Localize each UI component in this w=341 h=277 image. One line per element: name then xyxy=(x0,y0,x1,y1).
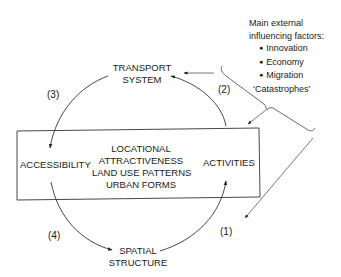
feedback-cycle-diagram: TRANSPORT SYSTEM ACCESSIBILITY LOCATIONA… xyxy=(0,0,341,277)
cycle-label-2: (2) xyxy=(218,84,230,95)
transport-line1: TRANSPORT xyxy=(112,62,172,74)
cycle-label-3: (3) xyxy=(47,89,59,100)
cycle-label-1: (1) xyxy=(220,226,232,237)
factor-catastrophes: ‘Catastrophes’ xyxy=(249,83,324,96)
factors-heading-2: influencing factors: xyxy=(249,30,324,43)
arc-3-arrow xyxy=(50,76,108,148)
node-transport-system: TRANSPORT SYSTEM xyxy=(112,62,172,86)
node-accessibility: ACCESSIBILITY xyxy=(20,159,91,171)
node-center-factors: LOCATIONAL ATTRACTIVENESS LAND USE PATTE… xyxy=(92,143,190,191)
factors-heading-1: Main external xyxy=(249,17,324,30)
external-arrow-spatial xyxy=(245,138,313,218)
factor-migration: Migration xyxy=(249,69,324,83)
spatial-line2: STRUCTURE xyxy=(108,257,168,269)
external-factors: Main external influencing factors: Innov… xyxy=(249,17,324,95)
transport-line2: SYSTEM xyxy=(112,74,172,86)
center-line1: LOCATIONAL xyxy=(92,143,190,155)
cycle-label-4: (4) xyxy=(48,230,60,241)
arc-1-arrow xyxy=(160,181,226,251)
center-line4: URBAN FORMS xyxy=(92,179,190,191)
node-activities: ACTIVITIES xyxy=(203,157,255,169)
external-arrow-box xyxy=(248,110,266,124)
spatial-line1: SPATIAL xyxy=(108,245,168,257)
factor-innovation: Innovation xyxy=(249,42,324,56)
center-line2: ATTRACTIVENESS xyxy=(92,155,190,167)
center-line3: LAND USE PATTERNS xyxy=(92,167,190,179)
factor-economy: Economy xyxy=(249,56,324,70)
node-spatial-structure: SPATIAL STRUCTURE xyxy=(108,245,168,269)
